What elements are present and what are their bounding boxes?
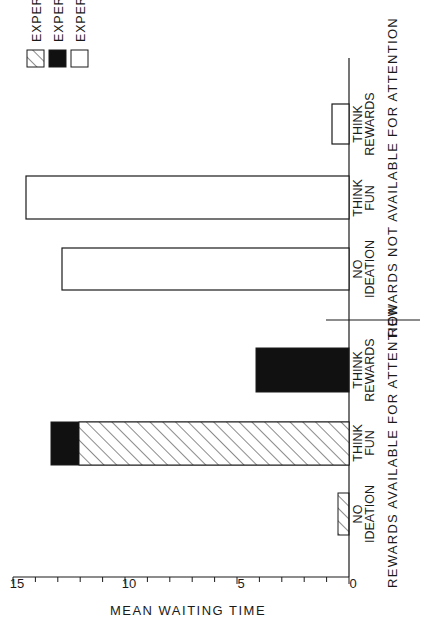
bars	[26, 104, 349, 535]
category-label-3-line2: REWARDS	[363, 338, 377, 401]
chart-stage: 0 5 10 15 MEAN WAITING TIME NO IDEATION …	[0, 0, 428, 629]
bar-not-available-think-fun-exp3	[26, 176, 349, 219]
group-label-available: REWARDS AVAILABLE FOR ATTENTION	[385, 304, 400, 588]
bar-chart: 0 5 10 15 MEAN WAITING TIME NO IDEATION …	[0, 0, 428, 629]
y-axis: 0 5 10 15 MEAN WAITING TIME	[10, 576, 357, 618]
category-label-2-line2: FUN	[363, 430, 377, 456]
bar-available-think-rewards-exp2	[256, 348, 349, 392]
y-tick-label-5: 5	[237, 576, 244, 591]
category-label-5-line2: FUN	[363, 185, 377, 211]
y-tick-label-15: 15	[10, 576, 24, 591]
bar-available-no-ideation-exp1	[338, 493, 349, 535]
category-label-1-line2: IDEATION	[363, 485, 377, 543]
y-tick-label-10: 10	[122, 576, 136, 591]
legend: EXPERIMENT I EXPERIMENT 2 EXPERIMENT 3	[27, 0, 88, 67]
legend-swatch-exp3	[71, 50, 88, 67]
y-axis-ticks	[13, 577, 349, 584]
bar-not-available-think-rewards-exp3	[332, 104, 349, 144]
bar-available-think-fun-exp1-hatch	[79, 422, 349, 465]
group-label-not-available: REWARDS NOT AVAILABLE FOR ATTENTION	[385, 17, 400, 337]
legend-label-exp2: EXPERIMENT 2	[52, 0, 66, 42]
legend-label-exp3: EXPERIMENT 3	[74, 0, 88, 42]
category-labels: NO IDEATION THINK FUN THINK REWARDS NO I…	[351, 92, 377, 543]
y-axis-title: MEAN WAITING TIME	[110, 603, 266, 618]
legend-swatch-exp1	[27, 50, 44, 67]
bar-not-available-no-ideation-exp3	[62, 248, 349, 290]
legend-label-exp1: EXPERIMENT I	[30, 0, 44, 42]
category-label-6-line2: REWARDS	[363, 92, 377, 155]
legend-swatch-exp2	[49, 50, 66, 67]
category-label-4-line2: IDEATION	[363, 240, 377, 298]
y-tick-label-0: 0	[349, 576, 356, 591]
